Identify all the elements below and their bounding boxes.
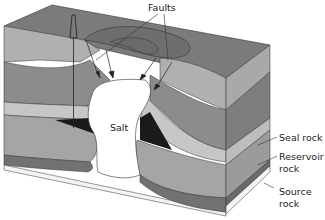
source-rock-label-line2: rock <box>279 198 299 209</box>
source-rock-label-line1: Source <box>279 186 312 197</box>
reservoir-rock-label-line2: rock <box>279 163 299 174</box>
faults-label: Faults <box>148 2 176 13</box>
reservoir-rock-label-line1: Reservoir <box>279 151 324 162</box>
salt-label: Salt <box>110 122 128 133</box>
salt-dome-block-diagram <box>0 0 325 220</box>
seal-rock-label: Seal rock <box>279 132 323 143</box>
